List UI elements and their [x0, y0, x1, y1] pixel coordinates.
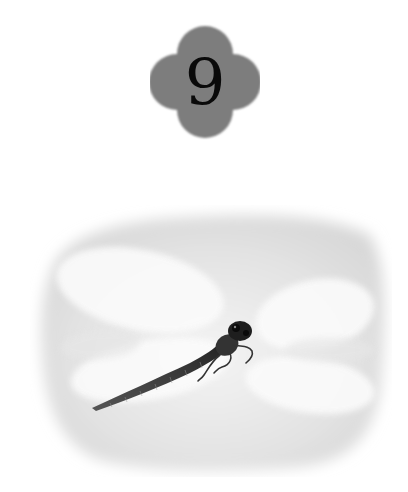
- number-badge: 9: [150, 24, 260, 140]
- dragonfly-icon: [30, 205, 392, 477]
- badge-number: 9: [150, 24, 260, 140]
- dragonfly-photo: [30, 205, 392, 477]
